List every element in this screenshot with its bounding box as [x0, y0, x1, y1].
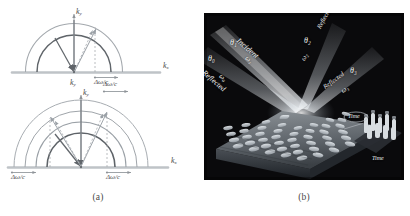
time-label-bottom: Time	[372, 155, 384, 161]
origin-label-ky-top: ky	[70, 79, 76, 88]
axis-label-kx-bottom: kx	[171, 157, 177, 166]
origin-marker-bottom	[80, 166, 82, 168]
kspace-diagram-bottom	[8, 90, 168, 173]
caption-panel-b: (b)	[274, 192, 334, 202]
time-label-pill-text: Time	[348, 113, 360, 119]
angle-label-theta0: θ₀	[208, 55, 215, 63]
beam-arrow-left-bottom	[55, 134, 80, 166]
angle-label-theta2: θ₂	[304, 37, 311, 45]
axis-label-ky-bottom: ky	[83, 89, 89, 98]
beam-arrow-outgoing-right-a	[81, 112, 107, 167]
bandwidth-bracket-bottom-top	[103, 90, 128, 92]
panel-b-illustration: Incident Reflected Reflected Reflected θ…	[204, 13, 404, 180]
bandwidth-label-bottom-left: Δω/c	[11, 174, 25, 181]
axis-label-ky-top: ky	[76, 8, 82, 17]
angle-label-theta3: θ₃	[350, 67, 357, 75]
caption-panel-a: (a)	[68, 192, 128, 202]
bandwidth-label-bottom-top: Δω/c	[103, 81, 117, 88]
beam-arrow-left-top	[55, 38, 73, 71]
panel-a-kspace-diagrams: ky kx ky Δω/c ky kx Δω/c Δω/c Δω/c	[0, 0, 205, 216]
angle-label-theta1: θ₁	[230, 39, 237, 47]
bandwidth-label-bottom-right: Δω/c	[106, 174, 120, 181]
kspace-vector-graphics	[0, 0, 205, 216]
axis-label-kx-top: kx	[163, 62, 169, 71]
origin-marker-top	[73, 71, 75, 73]
kspace-diagram-top	[12, 14, 160, 79]
figure-root: ky kx ky Δω/c ky kx Δω/c Δω/c Δω/c	[0, 0, 410, 216]
